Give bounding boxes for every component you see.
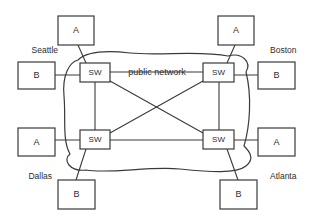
host-label-dallas-b: B [73, 189, 79, 199]
switch-label-seattle: SW [89, 68, 102, 77]
atlanta-host-b-link [227, 149, 238, 180]
host-label-seattle-b: B [33, 70, 39, 80]
boston-host-a-link [227, 45, 235, 63]
switch-node-seattle[interactable]: SW [80, 63, 110, 82]
host-node-boston-a[interactable]: A [218, 16, 254, 45]
host-label-boston-a: A [233, 25, 239, 35]
seattle-host-a-link [78, 45, 86, 63]
host-label-dallas-a: A [33, 137, 39, 147]
switch-label-boston: SW [212, 68, 225, 77]
host-node-dallas-a[interactable]: A [18, 128, 55, 156]
host-node-atlanta-b[interactable]: B [220, 180, 257, 209]
switch-node-atlanta[interactable]: SW [203, 130, 234, 149]
switch-label-atlanta: SW [212, 135, 225, 144]
dallas-host-b-link [76, 149, 86, 180]
city-label-seattle: Seattle [32, 45, 59, 55]
host-node-atlanta-a[interactable]: A [258, 128, 295, 156]
city-label-atlanta: Atlanta [270, 171, 297, 181]
host-label-boston-b: B [273, 70, 279, 80]
nodes-layer: ABSWABSWABSWABSW [18, 16, 295, 209]
city-labels-layer: SeattleBostonDallasAtlanta [28, 45, 296, 181]
network-diagram-canvas: public network ABSWABSWABSWABSW SeattleB… [0, 0, 315, 221]
city-label-dallas: Dallas [28, 171, 52, 181]
switch-label-dallas: SW [89, 135, 102, 144]
host-label-seattle-a: A [73, 25, 79, 35]
host-node-boston-b[interactable]: B [258, 62, 295, 89]
switch-node-dallas[interactable]: SW [80, 130, 110, 149]
host-node-dallas-b[interactable]: B [58, 180, 95, 209]
host-node-seattle-b[interactable]: B [18, 62, 55, 89]
host-label-atlanta-b: B [235, 189, 241, 199]
host-node-seattle-a[interactable]: A [58, 16, 94, 45]
host-label-atlanta-a: A [273, 137, 279, 147]
core-links-layer [95, 72, 219, 140]
switch-node-boston[interactable]: SW [203, 63, 234, 82]
network-diagram: public network ABSWABSWABSWABSW SeattleB… [0, 0, 315, 221]
city-label-boston: Boston [270, 45, 297, 55]
